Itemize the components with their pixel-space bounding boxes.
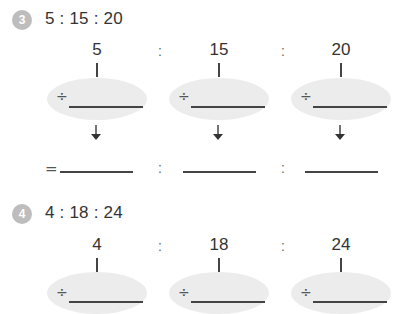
- connector-line: [340, 63, 342, 77]
- arrow-down-icon: [212, 125, 224, 141]
- divisor-blank-2[interactable]: [191, 301, 265, 303]
- connector-line: [340, 258, 342, 272]
- equals-sign: =: [45, 160, 58, 178]
- ratio-term-2: 18: [189, 235, 249, 255]
- divisor-blank-1[interactable]: [69, 106, 143, 108]
- ratio-separator: :: [155, 160, 165, 176]
- ratio-separator: :: [155, 238, 165, 254]
- divisor-blank-3[interactable]: [313, 301, 387, 303]
- ratio-term-1: 4: [67, 235, 127, 255]
- result-blank-2[interactable]: [183, 171, 256, 173]
- result-blank-3[interactable]: [305, 171, 378, 173]
- ratio-term-1: 5: [67, 40, 127, 60]
- ratio-separator: :: [278, 238, 288, 254]
- connector-line: [218, 258, 220, 272]
- divide-sign: ÷: [56, 88, 68, 104]
- divide-sign: ÷: [300, 88, 312, 104]
- result-blank-1[interactable]: [60, 171, 133, 173]
- ratio-separator: :: [155, 43, 165, 59]
- ratio-term-2: 15: [189, 40, 249, 60]
- divisor-blank-1[interactable]: [69, 301, 143, 303]
- connector-line: [218, 63, 220, 77]
- arrow-down-icon: [334, 125, 346, 141]
- connector-line: [96, 258, 98, 272]
- divide-sign: ÷: [178, 284, 190, 300]
- divide-sign: ÷: [56, 284, 68, 300]
- problem-number: 4: [19, 207, 26, 221]
- ratio-separator: :: [278, 43, 288, 59]
- arrow-down-icon: [90, 125, 102, 141]
- ratio-title: 5 : 15 : 20: [45, 9, 123, 29]
- problem-number: 3: [19, 13, 26, 27]
- divide-sign: ÷: [178, 88, 190, 104]
- divisor-blank-3[interactable]: [313, 106, 387, 108]
- problem-number-badge: 4: [12, 204, 32, 224]
- ratio-term-3: 24: [311, 235, 371, 255]
- ratio-title: 4 : 18 : 24: [45, 203, 123, 223]
- connector-line: [96, 63, 98, 77]
- ratio-term-3: 20: [311, 40, 371, 60]
- ratio-separator: :: [278, 160, 288, 176]
- problem-number-badge: 3: [12, 10, 32, 30]
- divisor-blank-2[interactable]: [191, 106, 265, 108]
- divide-sign: ÷: [300, 284, 312, 300]
